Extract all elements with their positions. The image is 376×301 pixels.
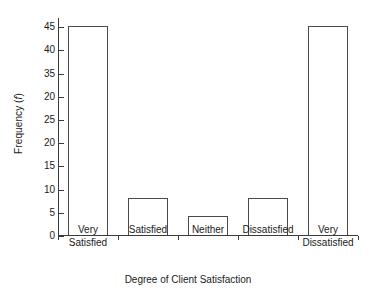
y-axis-title-symbol: f — [13, 97, 24, 100]
y-tick-label: 5 — [31, 207, 55, 218]
y-axis-title-suffix: ) — [13, 93, 24, 96]
y-tick: 15 — [59, 166, 64, 167]
y-tick: 35 — [59, 74, 64, 75]
x-category-label: Very Dissatisfied — [290, 224, 366, 249]
y-axis-title: Frequency (f) — [13, 74, 24, 174]
x-tick — [178, 236, 179, 240]
y-tick: 5 — [59, 213, 64, 214]
y-tick-label: 10 — [31, 184, 55, 195]
y-tick-label: 15 — [31, 160, 55, 171]
y-tick: 10 — [59, 190, 64, 191]
y-tick-label: 20 — [31, 91, 55, 102]
bar-chart: Frequency (f) 051015202520354045 Very Sa… — [0, 0, 376, 301]
y-tick: 25 — [59, 120, 64, 121]
y-tick-label: 20 — [31, 137, 55, 148]
bar — [308, 26, 348, 235]
plot-area: 051015202520354045 — [58, 18, 358, 236]
bar — [68, 26, 108, 235]
x-axis-title: Degree of Client Satisfaction — [0, 274, 376, 285]
y-tick: 45 — [59, 27, 64, 28]
y-axis-title-prefix: Frequency ( — [13, 99, 24, 153]
y-tick-label: 45 — [31, 21, 55, 32]
y-tick: 20 — [59, 97, 64, 98]
y-tick: 40 — [59, 50, 64, 51]
y-tick-label: 35 — [31, 68, 55, 79]
y-tick-label: 40 — [31, 44, 55, 55]
y-tick-label: 25 — [31, 114, 55, 125]
y-tick: 20 — [59, 143, 64, 144]
x-tick — [238, 236, 239, 240]
